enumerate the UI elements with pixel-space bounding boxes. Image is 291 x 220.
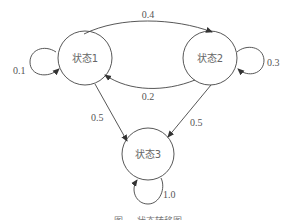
edge-s1-s1: 0.1 (13, 48, 59, 76)
edge-s1-s1-label: 0.1 (13, 65, 26, 76)
edge-s2-s2-label: 0.3 (267, 57, 280, 68)
edge-s2-s3-label: 0.5 (190, 117, 203, 128)
state-node-1: 状态1 (58, 31, 112, 85)
state-1-label: 状态1 (72, 52, 98, 64)
edge-s1-s2: 0.4 (84, 9, 212, 34)
edge-s3-s3-label: 1.0 (163, 189, 176, 200)
state-node-3: 状态3 (122, 128, 174, 180)
edge-s1-s3-label: 0.5 (91, 112, 104, 123)
edge-s2-s3: 0.5 (168, 85, 211, 137)
edge-s3-s3: 1.0 (134, 178, 175, 204)
edge-s2-s1: 0.2 (105, 75, 195, 102)
edge-s2-s1-label: 0.2 (142, 91, 155, 102)
figure-caption: 图 … 状态转移图 (114, 215, 183, 220)
edge-s1-s3: 0.5 (91, 84, 127, 141)
edge-s1-s2-label: 0.4 (142, 9, 155, 20)
edge-s2-s2: 0.3 (237, 47, 280, 73)
state-transition-diagram: 状态1 状态2 状态3 0.1 0.4 0.2 0.3 0.5 0.5 (0, 0, 291, 220)
state-3-label: 状态3 (135, 148, 161, 160)
state-2-label: 状态2 (197, 52, 223, 64)
state-node-2: 状态2 (183, 31, 237, 85)
